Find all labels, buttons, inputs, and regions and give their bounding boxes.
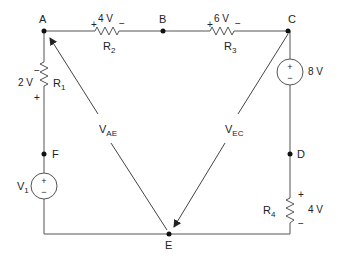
r1-subscript: 1	[61, 83, 65, 92]
node-c-label: C	[288, 14, 296, 25]
v1-subscript: 1	[24, 186, 28, 195]
r3-subscript: 3	[232, 46, 236, 55]
vae-label: VAE	[99, 124, 117, 135]
src8v-plus-sign: +	[287, 62, 292, 72]
v1-plus-sign: +	[41, 176, 46, 186]
r1-name: R	[53, 77, 61, 89]
vec-label: VEC	[225, 124, 243, 135]
r1-minus-sign: −	[34, 66, 40, 76]
node-e-label: E	[165, 240, 172, 251]
r2-name: R	[103, 40, 111, 52]
r2-subscript: 2	[111, 46, 115, 55]
vector-vec-line-upper	[238, 34, 288, 114]
resistor-r4-icon	[286, 198, 294, 223]
r3-minus-sign: −	[235, 19, 241, 29]
r2-name-label: R2	[103, 41, 115, 52]
node-a-dot	[42, 29, 47, 34]
vector-vae-line-lower	[111, 143, 167, 230]
v1-name-label: V1	[17, 181, 29, 192]
r2-plus-sign: +	[91, 20, 97, 30]
vector-vae-arrow-upper	[50, 38, 98, 114]
src8v-minus-sign: −	[287, 73, 292, 83]
node-d-label: D	[297, 149, 305, 160]
node-c-dot	[286, 29, 291, 34]
resistor-r1-icon	[40, 62, 48, 86]
vec-subscript: EC	[232, 129, 243, 138]
node-f-label: F	[52, 149, 59, 160]
r4-subscript: 4	[271, 210, 275, 219]
r4-plus-sign: +	[298, 190, 304, 200]
r4-voltage-label: 4 V	[308, 205, 323, 215]
node-b-label: B	[159, 14, 166, 25]
r2-minus-sign: −	[119, 19, 125, 29]
resistor-r3-icon	[210, 27, 234, 35]
vector-vec-arrow-lower	[174, 143, 225, 227]
r1-voltage-label: 2 V	[18, 78, 33, 88]
r3-plus-sign: +	[207, 20, 213, 30]
r3-name-label: R3	[224, 41, 236, 52]
r1-name-label: R1	[53, 78, 65, 89]
resistor-r2-icon	[95, 27, 119, 35]
r4-minus-sign: −	[298, 219, 304, 229]
r3-voltage-label: 6 V	[214, 14, 229, 24]
r3-name: R	[224, 40, 232, 52]
r4-name-label: R4	[263, 205, 275, 216]
vae-subscript: AE	[106, 129, 117, 138]
r2-voltage-label: 4 V	[98, 14, 113, 24]
r4-name: R	[263, 204, 271, 216]
node-e-dot	[167, 232, 172, 237]
circuit-diagram: + − + −	[0, 0, 338, 256]
node-d-dot	[288, 152, 293, 157]
v1-minus-sign: −	[41, 187, 46, 197]
node-b-dot	[161, 29, 166, 34]
source-8v-voltage-label: 8 V	[308, 67, 323, 77]
node-a-label: A	[39, 14, 46, 25]
r1-plus-sign: +	[34, 93, 40, 103]
node-f-dot	[42, 152, 47, 157]
